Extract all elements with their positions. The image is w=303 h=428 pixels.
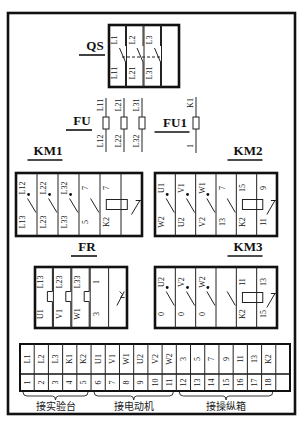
- coil-icon: [106, 200, 127, 210]
- fuse-label-top: L21: [114, 99, 123, 112]
- km1-title-label-text: KM1: [34, 143, 63, 158]
- qs-title-label: QS: [79, 38, 105, 55]
- km1-module: L12L13L22L23L32L33757K2: [16, 173, 142, 236]
- terminal-number: 4: [65, 381, 74, 385]
- terminal-label-top: 7: [218, 186, 227, 190]
- km2-title-label-text: KM2: [234, 143, 263, 158]
- fuse: L31L32: [132, 98, 146, 152]
- coil-icon: [242, 200, 262, 210]
- terminal-dot-icon: [186, 286, 189, 289]
- terminal-number: 17: [250, 379, 259, 387]
- terminal-cell: U29: [136, 354, 145, 384]
- terminal-label-bottom: L31: [145, 67, 154, 80]
- terminal-number: 15: [222, 379, 231, 387]
- terminal-dot-icon: [48, 193, 51, 196]
- terminal-top-label: L3: [51, 355, 60, 364]
- km3-module-terminal: W20: [198, 276, 215, 316]
- km3-module-terminal: V20: [177, 277, 194, 316]
- terminal-label-top: V1: [177, 183, 186, 193]
- fu-title-label-text: FU: [73, 113, 91, 128]
- fuse-label-bottom: L32: [132, 135, 141, 148]
- terminal-label-top: L23: [55, 276, 64, 289]
- contact-blade-icon: [227, 199, 235, 213]
- group-brace-icon: [179, 392, 272, 400]
- fr-module: L13U1L23V1L33W113: [35, 267, 127, 328]
- terminal-cell: W211: [165, 353, 174, 386]
- terminal-label-top: L22: [39, 182, 48, 195]
- switch-blade-icon: [137, 48, 143, 62]
- qs-module-terminal: L2L21: [128, 25, 143, 87]
- terminal-strip: L11L22L33K14K25U16V17W18U29V210W21131251…: [20, 344, 290, 412]
- terminal-dot-icon: [186, 193, 189, 196]
- terminal-number: 8: [122, 381, 131, 385]
- km1-module-terminal: L12L13: [18, 182, 36, 229]
- terminal-top-label: K2: [79, 354, 88, 364]
- terminal-label-bottom: 13: [218, 218, 227, 226]
- contact-blade-icon: [227, 292, 235, 306]
- fuse-icon: [121, 117, 127, 129]
- fuse: L11L12: [96, 98, 110, 152]
- km1-module-terminal: L22L23: [39, 182, 57, 229]
- terminal-cell: K218: [264, 354, 273, 386]
- qs-module: L1L11L2L21L3L31: [109, 25, 179, 87]
- terminal-label-bottom: W2: [157, 216, 166, 228]
- terminal-top-label: 9: [222, 357, 231, 361]
- terminal-label-top: U1: [157, 183, 166, 193]
- coil-icon: [242, 293, 262, 303]
- terminal-label-top: 1: [92, 280, 101, 284]
- terminal-label-top: L33: [73, 276, 82, 289]
- terminal-cell: 312: [179, 357, 188, 387]
- thermal-element-icon: [66, 267, 71, 328]
- terminal-top-label: W1: [122, 353, 131, 365]
- terminal-dot-icon: [166, 286, 169, 289]
- qs-title-label-text: QS: [86, 38, 103, 53]
- km3-title-label: KM3: [228, 239, 263, 256]
- terminal-number: 9: [136, 381, 145, 385]
- terminal-number: 7: [108, 381, 117, 385]
- km2-module-terminal: 713: [218, 186, 235, 226]
- contact-blade-icon: [91, 199, 99, 213]
- terminal-number: 11: [165, 379, 174, 387]
- terminal-label-bottom: 5: [81, 220, 90, 224]
- fu1-title-label-text: FU1: [163, 115, 187, 130]
- contact-blade-icon: [187, 292, 195, 306]
- fuse-label-top: L31: [132, 99, 141, 112]
- terminal-cell: V17: [108, 354, 117, 384]
- terminal-top-label: K1: [65, 354, 74, 364]
- terminal-top-label: 7: [207, 357, 216, 361]
- km2-module-terminal: U1W2: [157, 183, 174, 228]
- terminal-label-top: L2: [128, 36, 137, 45]
- terminal-cell: 1317: [250, 355, 259, 387]
- nc-contact-icon: [132, 201, 140, 215]
- switch-blade-icon: [155, 48, 161, 62]
- contact-blade-icon: [187, 199, 195, 213]
- terminal-label-top: 15: [238, 184, 247, 192]
- fu1-title-label: FU1: [155, 115, 190, 132]
- fuse-icon: [103, 117, 109, 129]
- nc-contact-icon: [267, 201, 275, 215]
- terminal-number: 6: [94, 381, 103, 385]
- terminal-label-top: 9: [259, 186, 268, 190]
- thermal-contact-icon: [117, 292, 124, 306]
- wiring-diagram: QSL1L11L2L21L3L31FUL11L12L21L22L31L32FU1…: [0, 0, 303, 428]
- terminal-label-bottom: 15: [259, 310, 268, 318]
- terminal-dot-icon: [206, 286, 209, 289]
- terminal-label-top: L12: [18, 182, 27, 195]
- terminal-cell: 513: [193, 357, 202, 387]
- terminal-group-label: 接实验台: [36, 400, 76, 412]
- km2-module-terminal: V1U2: [177, 183, 194, 227]
- group-brace-icon: [23, 392, 88, 400]
- contact-blade-icon: [49, 199, 57, 213]
- terminal-number: 18: [264, 379, 273, 387]
- terminal-top-label: L1: [23, 355, 32, 364]
- fr-module-terminal: L33W1: [73, 267, 89, 328]
- thermal-element-icon: [47, 267, 52, 328]
- fr-module-terminal: L23V1: [55, 267, 71, 328]
- terminal-label-top: L1: [110, 36, 119, 45]
- terminal-label-top: 7: [81, 186, 90, 190]
- terminal-label-bottom: V1: [55, 309, 64, 319]
- fuse-label-bottom: L22: [114, 135, 123, 148]
- qs-module-terminal: L3L31: [145, 25, 160, 87]
- terminal-label-top: 13: [259, 278, 268, 286]
- contact-blade-icon: [166, 199, 174, 213]
